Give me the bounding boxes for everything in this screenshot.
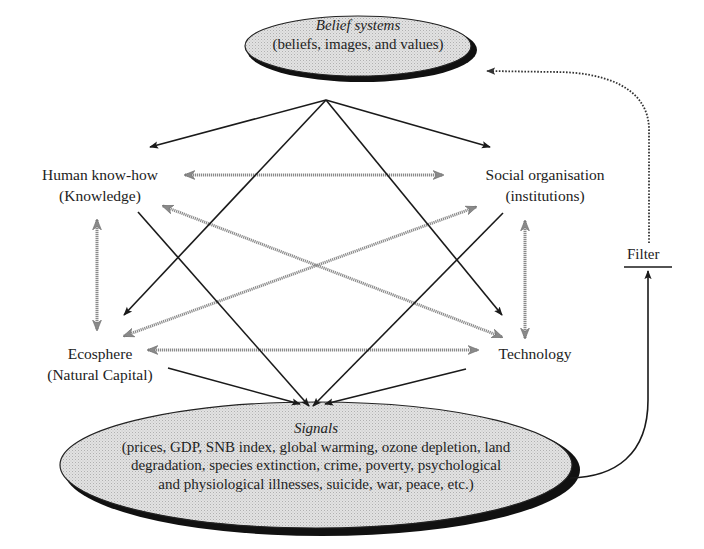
belief-influence-arrows	[124, 100, 502, 315]
arrow-filter-belief	[487, 71, 649, 243]
signals-line-3: and physiological illnesses, suicide, wa…	[76, 475, 556, 494]
signals-line-2: degradation, species extinction, crime, …	[76, 456, 556, 475]
filter-label: Filter	[627, 246, 660, 263]
node-technology: Technology	[480, 343, 590, 364]
arrow-knowledge-technology	[163, 206, 502, 337]
arrow-belief-ecosphere	[124, 100, 326, 315]
belief-systems-subtitle: (beliefs, images, and values)	[243, 35, 473, 54]
belief-systems-label: Belief systems (beliefs, images, and val…	[243, 16, 473, 54]
signals-label: Signals (prices, GDP, SNB index, global …	[76, 419, 556, 493]
arrow-signals-filter	[570, 271, 648, 478]
arrow-belief-knowledge	[150, 100, 326, 147]
signals-line-1: (prices, GDP, SNB index, global warming,…	[76, 438, 556, 457]
node-social-title: Social organisation	[455, 164, 635, 185]
node-human-know-how: Human know-how (Knowledge)	[20, 164, 180, 206]
node-ecosphere-subtitle: (Natural Capital)	[30, 364, 170, 385]
node-knowledge-title: Human know-how	[20, 164, 180, 185]
node-social-organisation: Social organisation (institutions)	[455, 164, 635, 206]
arrow-belief-social	[326, 100, 490, 147]
node-ecosphere: Ecosphere (Natural Capital)	[30, 343, 170, 385]
node-technology-title: Technology	[480, 343, 590, 364]
node-ecosphere-title: Ecosphere	[30, 343, 170, 364]
arrow-technology-signals	[325, 369, 466, 404]
arrow-social-signals	[313, 213, 503, 406]
node-knowledge-subtitle: (Knowledge)	[20, 185, 180, 206]
arrow-social-ecosphere	[124, 207, 476, 336]
belief-systems-title: Belief systems	[243, 16, 473, 35]
node-social-subtitle: (institutions)	[455, 185, 635, 206]
signals-title: Signals	[76, 419, 556, 438]
